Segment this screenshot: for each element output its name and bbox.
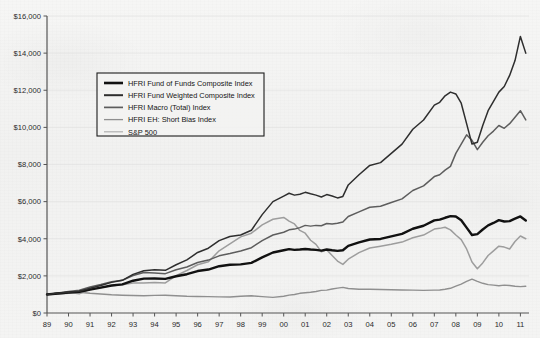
gridlines — [47, 16, 529, 276]
x-tick-label: 91 — [86, 320, 94, 329]
x-tick-label: 02 — [323, 320, 331, 329]
series-line — [47, 279, 526, 297]
x-tick-label: 05 — [387, 320, 395, 329]
x-tick-label: 04 — [366, 320, 374, 329]
y-tick-label: $16,000 — [14, 12, 41, 21]
chart-svg: $0$2,000$4,000$6,000$8,000$10,000$12,000… — [0, 0, 540, 338]
x-tick-label: 99 — [258, 320, 266, 329]
y-tick-label: $0 — [33, 309, 41, 318]
x-tick-label: 94 — [150, 320, 158, 329]
x-tick-label: 97 — [215, 320, 223, 329]
x-tick-label: 95 — [172, 320, 180, 329]
legend-label: HFRI Macro (Total) Index — [128, 103, 211, 112]
x-tick-label: 93 — [129, 320, 137, 329]
x-tick-label: 08 — [452, 320, 460, 329]
x-tick-label: 01 — [301, 320, 309, 329]
x-axis-tick-labels: 8990919293949596979899000102030405060708… — [43, 320, 525, 329]
legend-label: HFRI Fund Weighted Composite Index — [128, 91, 255, 100]
y-tick-label: $8,000 — [18, 160, 41, 169]
x-tick-label: 96 — [193, 320, 201, 329]
x-tick-label: 89 — [43, 320, 51, 329]
y-tick-label: $12,000 — [14, 86, 41, 95]
series-line — [47, 217, 526, 294]
y-tick-label: $14,000 — [14, 49, 41, 58]
x-tick-label: 10 — [495, 320, 503, 329]
x-tick-label: 03 — [344, 320, 352, 329]
legend-label: HFRI EH: Short Bias Index — [128, 115, 216, 124]
x-tick-label: 00 — [279, 320, 287, 329]
y-tick-label: $10,000 — [14, 123, 41, 132]
y-axis-tick-labels: $0$2,000$4,000$6,000$8,000$10,000$12,000… — [14, 12, 41, 318]
legend-label: HFRI Fund of Funds Composite Index — [128, 79, 253, 88]
series-line — [47, 216, 526, 294]
x-tick-label: 11 — [516, 320, 524, 329]
line-chart: $0$2,000$4,000$6,000$8,000$10,000$12,000… — [0, 0, 540, 338]
x-tick-label: 09 — [473, 320, 481, 329]
y-tick-label: $6,000 — [18, 197, 41, 206]
legend-label: S&P 500 — [128, 128, 157, 137]
x-tick-label: 98 — [236, 320, 244, 329]
x-tick-label: 07 — [430, 320, 438, 329]
x-tick-label: 90 — [64, 320, 72, 329]
x-tick-label: 06 — [409, 320, 417, 329]
y-tick-label: $4,000 — [18, 235, 41, 244]
chart-legend: HFRI Fund of Funds Composite IndexHFRI F… — [97, 73, 264, 137]
series-line — [47, 111, 526, 295]
x-tick-label: 92 — [107, 320, 115, 329]
y-tick-label: $2,000 — [18, 272, 41, 281]
